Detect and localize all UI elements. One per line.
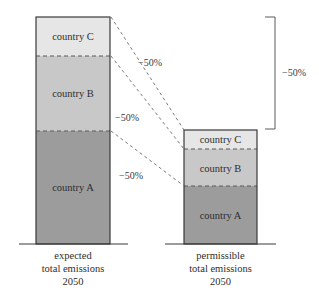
segment-label: country B [52,88,94,99]
emissions-diagram: country C country B country A country C … [0,0,319,302]
expected-bar: country C country B country A [36,17,110,244]
permissible-bar: country C country B country A [184,130,257,244]
reduction-label: −50% [115,112,139,123]
caption-line: total emissions [189,263,252,274]
reduction-label: −50% [138,57,162,68]
total-reduction-bracket: −50% [265,17,306,129]
segment-label: country C [52,31,94,42]
caption-line: permissible [196,250,245,261]
caption-line: expected [54,250,92,261]
caption-line: 2050 [63,276,84,287]
segment-label: country B [200,163,242,174]
segment-label: country A [200,210,242,221]
permissible-caption: permissible total emissions 2050 [189,250,252,287]
caption-line: total emissions [42,263,105,274]
segment-label: country A [52,182,94,193]
caption-line: 2050 [210,276,231,287]
segment-label: country C [200,134,242,145]
expected-caption: expected total emissions 2050 [42,250,105,287]
bracket-label: −50% [282,67,306,78]
connector-line [111,56,184,149]
reduction-label: −50% [119,170,143,181]
